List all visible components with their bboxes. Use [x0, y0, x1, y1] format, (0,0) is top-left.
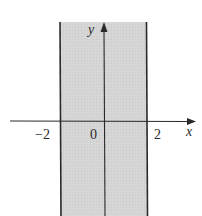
diagram-svg: y x −2 0 2	[0, 0, 202, 216]
x-axis-label: x	[185, 124, 193, 139]
boundary-line-right	[147, 22, 148, 216]
tick-label-0: 0	[90, 127, 97, 142]
tick-label-2: 2	[154, 127, 161, 142]
boundary-line-left	[60, 22, 61, 216]
strip-diagram: y x −2 0 2	[0, 0, 202, 216]
shaded-region	[60, 22, 147, 216]
tick-label-neg2: −2	[35, 127, 50, 142]
y-axis-label: y	[86, 22, 95, 37]
x-axis	[10, 121, 190, 122]
